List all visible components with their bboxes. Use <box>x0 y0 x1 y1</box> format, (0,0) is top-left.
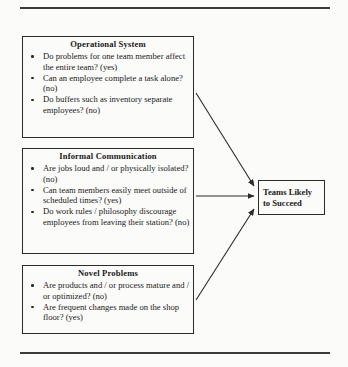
bullet-text: Can team members easily meet outside of … <box>43 185 187 206</box>
diagram-canvas: Operational System Do problems for one t… <box>0 0 348 367</box>
bullet-icon <box>31 211 34 214</box>
box-novel-problems-bullets: Are products and / or process mature and… <box>23 280 193 323</box>
outcome-line-2: to Succeed <box>263 198 312 209</box>
box-novel-problems-title: Novel Problems <box>23 266 193 279</box>
arrow-novel-to-outcome <box>196 209 254 300</box>
bullet-icon <box>31 284 34 287</box>
outcome-line-1: Teams Likely <box>263 187 312 198</box>
bullet-text: Can an employee complete a task alone? (… <box>43 73 183 94</box>
page-top-rule <box>20 7 330 9</box>
arrow-operational-to-outcome <box>196 93 254 186</box>
bullet-text: Do work rules / philosophy discourage em… <box>43 206 189 227</box>
box-informal-communication: Informal Communication Are jobs loud and… <box>22 148 194 254</box>
box-informal-communication-title: Informal Communication <box>23 149 193 162</box>
box-operational-system: Operational System Do problems for one t… <box>22 36 194 138</box>
box-informal-communication-bullets: Are jobs loud and / or physically isolat… <box>23 163 193 228</box>
bullet-icon <box>31 306 34 309</box>
bullet-text: Are products and / or process mature and… <box>43 280 189 301</box>
list-item: Do work rules / philosophy discourage em… <box>23 206 193 227</box>
box-novel-problems: Novel Problems Are products and / or pro… <box>22 265 194 334</box>
bullet-icon <box>31 77 34 80</box>
box-operational-system-bullets: Do problems for one team member affect t… <box>23 51 193 116</box>
list-item: Do buffers such as inventory separate em… <box>23 94 193 115</box>
bullet-icon <box>31 99 34 102</box>
list-item: Do problems for one team member affect t… <box>23 51 193 72</box>
list-item: Can an employee complete a task alone? (… <box>23 73 193 94</box>
bullet-text: Do problems for one team member affect t… <box>43 51 185 72</box>
bullet-icon <box>31 167 34 170</box>
bullet-text: Do buffers such as inventory separate em… <box>43 94 172 115</box>
list-item: Can team members easily meet outside of … <box>23 185 193 206</box>
box-teams-likely-to-succeed: Teams Likely to Succeed <box>258 180 325 215</box>
box-operational-system-title: Operational System <box>23 37 193 50</box>
list-item: Are products and / or process mature and… <box>23 280 193 301</box>
list-item: Are frequent changes made on the shop fl… <box>23 302 193 323</box>
box-teams-likely-to-succeed-text: Teams Likely to Succeed <box>259 187 312 209</box>
list-item: Are jobs loud and / or physically isolat… <box>23 163 193 184</box>
bullet-text: Are frequent changes made on the shop fl… <box>43 302 179 323</box>
page-bottom-rule <box>20 352 330 354</box>
bullet-icon <box>31 55 34 58</box>
bullet-text: Are jobs loud and / or physically isolat… <box>43 163 188 184</box>
bullet-icon <box>31 189 34 192</box>
